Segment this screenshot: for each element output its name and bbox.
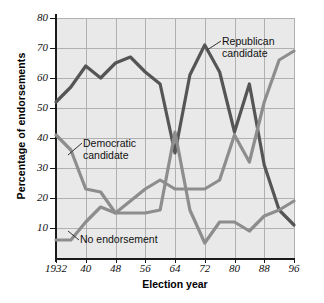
y-tick-label-80: 80 [22, 12, 48, 23]
x-tick-label-96: 96 [274, 262, 314, 274]
gridline-x-64 [175, 18, 176, 258]
x-axis-line [55, 258, 295, 260]
endorsements-line-chart: 102030405060708019324048566472808896 Rep… [0, 0, 324, 303]
y-axis-title: Percentage of endorsements [15, 26, 27, 226]
gridline-x-72 [205, 18, 206, 258]
annotation-democratic-line2: candidate [83, 150, 136, 162]
x-axis-title: Election year [56, 278, 294, 290]
annotation-republican-line1: Republican [222, 36, 275, 48]
gridline-x-96 [294, 18, 295, 258]
y-axis-line [55, 14, 57, 262]
annotation-democratic-line1: Democratic [83, 138, 136, 150]
annotation-no-endorsement: No endorsement [80, 234, 158, 246]
annotation-republican: Republican candidate [222, 36, 275, 59]
annotation-democratic: Democratic candidate [83, 138, 136, 161]
annotation-republican-line2: candidate [222, 48, 275, 60]
gridline-x-56 [145, 18, 146, 258]
